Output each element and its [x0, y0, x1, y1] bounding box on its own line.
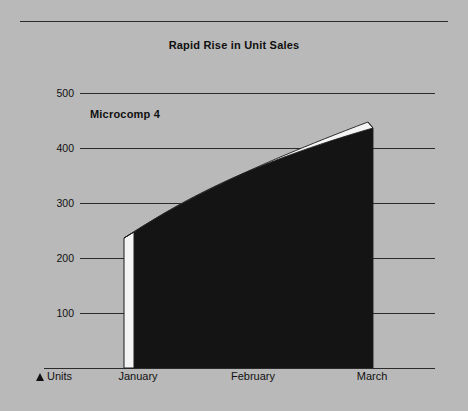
- plot-area: 500 400 300 200 100 January February Mar…: [0, 0, 468, 411]
- y-axis-unit-legend: Units: [36, 370, 72, 382]
- area-fill-shape: [134, 128, 373, 368]
- area-left-face: [124, 232, 134, 368]
- area-series-microcomp-4: [0, 0, 468, 411]
- x-tick-label-march: March: [357, 370, 388, 382]
- x-tick-label-february: February: [231, 370, 275, 382]
- chart-page: Rapid Rise in Unit Sales Microcomp 4 500…: [0, 0, 468, 411]
- y-axis-unit-label: Units: [47, 370, 72, 382]
- x-tick-label-january: January: [118, 370, 157, 382]
- triangle-up-icon: [36, 373, 44, 381]
